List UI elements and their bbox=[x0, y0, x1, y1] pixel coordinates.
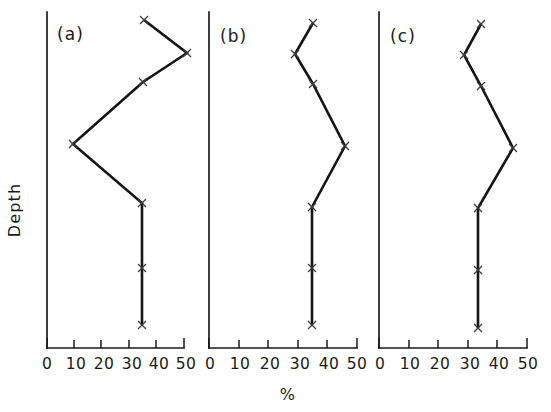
panel-c-x-tick-labels: 0 10 20 30 40 50 bbox=[375, 355, 538, 373]
data-point-marker bbox=[139, 78, 147, 86]
chart-svg: 0 10 20 30 40 50 (a) bbox=[0, 0, 551, 412]
data-point-marker bbox=[309, 19, 317, 27]
panel-b-x-ticks bbox=[209, 338, 357, 348]
panel-a: 0 10 20 30 40 50 (a) bbox=[42, 12, 196, 373]
panel-c: 0 10 20 30 40 50 (c) bbox=[375, 12, 538, 373]
tick-label: 0 bbox=[42, 355, 52, 373]
panel-a-x-tick-labels: 0 10 20 30 40 50 bbox=[42, 355, 196, 373]
tick-label: 20 bbox=[430, 355, 450, 373]
panel-c-markers bbox=[460, 20, 517, 332]
panel-c-label: (c) bbox=[390, 26, 416, 46]
figure-canvas: 0 10 20 30 40 50 (a) bbox=[0, 0, 551, 412]
tick-label: 10 bbox=[400, 355, 420, 373]
tick-label: 40 bbox=[149, 355, 169, 373]
panel-b-markers bbox=[291, 19, 349, 329]
x-axis-title: % bbox=[280, 385, 296, 404]
tick-label: 30 bbox=[460, 355, 480, 373]
tick-label: 10 bbox=[66, 355, 86, 373]
panel-a-data-line bbox=[73, 20, 187, 325]
tick-label: 50 bbox=[347, 355, 367, 373]
tick-label: 50 bbox=[518, 355, 538, 373]
tick-label: 40 bbox=[319, 355, 339, 373]
panel-c-data-line bbox=[464, 24, 513, 328]
data-point-marker bbox=[460, 51, 468, 59]
tick-label: 0 bbox=[375, 355, 385, 373]
data-point-marker bbox=[183, 49, 191, 57]
y-axis-title: Depth bbox=[5, 183, 24, 238]
tick-label: 30 bbox=[290, 355, 310, 373]
tick-label: 0 bbox=[205, 355, 215, 373]
panel-a-x-ticks bbox=[47, 338, 184, 348]
tick-label: 50 bbox=[176, 355, 196, 373]
panel-c-x-ticks bbox=[379, 338, 527, 348]
tick-label: 20 bbox=[94, 355, 114, 373]
panel-b: 0 10 20 30 40 50 (b) bbox=[205, 12, 367, 373]
panel-b-data-line bbox=[295, 23, 345, 325]
panel-b-x-tick-labels: 0 10 20 30 40 50 bbox=[205, 355, 367, 373]
tick-label: 20 bbox=[260, 355, 280, 373]
tick-label: 40 bbox=[489, 355, 509, 373]
tick-label: 10 bbox=[230, 355, 250, 373]
data-point-marker bbox=[291, 50, 299, 58]
data-point-marker bbox=[477, 20, 485, 28]
panel-a-label: (a) bbox=[57, 24, 84, 44]
data-point-marker bbox=[140, 16, 148, 24]
panel-b-label: (b) bbox=[220, 26, 247, 46]
data-point-marker bbox=[69, 140, 77, 148]
tick-label: 30 bbox=[122, 355, 142, 373]
